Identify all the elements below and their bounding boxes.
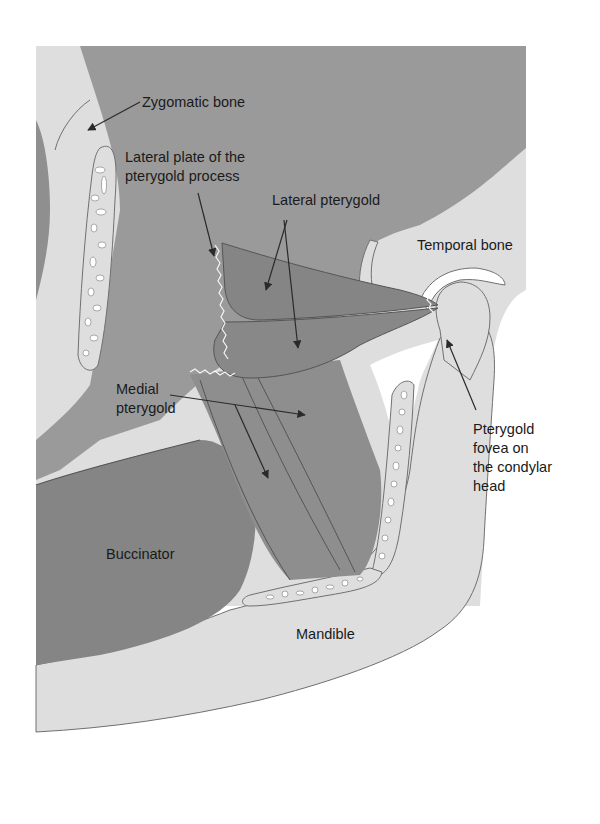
label-pterygold-fovea: Pterygold fovea on the condylar head bbox=[473, 420, 552, 496]
label-medial-pterygold: Medial pterygold bbox=[116, 380, 176, 418]
anatomy-illustration bbox=[0, 0, 600, 824]
label-temporal-bone: Temporal bone bbox=[417, 236, 513, 255]
label-lateral-pterygold: Lateral pterygold bbox=[272, 191, 380, 210]
anatomy-figure: Zygomatic bone Lateral plate of the pter… bbox=[0, 0, 600, 824]
label-lateral-plate: Lateral plate of the pterygold process bbox=[125, 148, 245, 186]
label-buccinator: Buccinator bbox=[106, 545, 175, 564]
label-mandible: Mandible bbox=[296, 625, 355, 644]
label-zygomatic-bone: Zygomatic bone bbox=[142, 93, 245, 112]
